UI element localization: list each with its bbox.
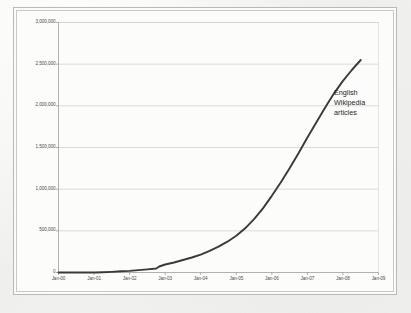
axis-ticks [56, 23, 379, 276]
y-tick-label: 0 [12, 270, 56, 275]
x-tick-label: Jan-07 [292, 277, 322, 282]
y-tick-label: 3,000,000 [12, 20, 56, 25]
x-tick-label: Jan-05 [221, 277, 251, 282]
y-tick-label: 2,000,000 [12, 103, 56, 108]
annotation-line: Wikipedia [334, 98, 365, 108]
x-tick-label: Jan-06 [257, 277, 287, 282]
x-tick-label: Jan-03 [150, 277, 180, 282]
x-tick-label: Jan-00 [44, 277, 74, 282]
annotation-line: articles [334, 108, 365, 118]
x-tick-label: Jan-04 [186, 277, 216, 282]
series-annotation-label: EnglishWikipediaarticles [334, 88, 365, 119]
x-tick-label: Jan-08 [328, 277, 358, 282]
y-tick-label: 1,000,000 [12, 187, 56, 192]
line-chart: 3,000,0002,500,0002,000,0001,500,0001,00… [0, 0, 411, 313]
x-tick-label: Jan-02 [115, 277, 145, 282]
y-tick-label: 500,000 [12, 228, 56, 233]
annotation-line: English [334, 88, 365, 98]
y-tick-label: 2,500,000 [12, 62, 56, 67]
plot-canvas [0, 0, 411, 313]
y-tick-label: 1,500,000 [12, 145, 56, 150]
gridlines [59, 23, 379, 231]
x-tick-label: Jan-01 [79, 277, 109, 282]
series-polyline [59, 60, 361, 273]
data-series-line [59, 60, 361, 273]
x-tick-label: Jan-09 [364, 277, 394, 282]
